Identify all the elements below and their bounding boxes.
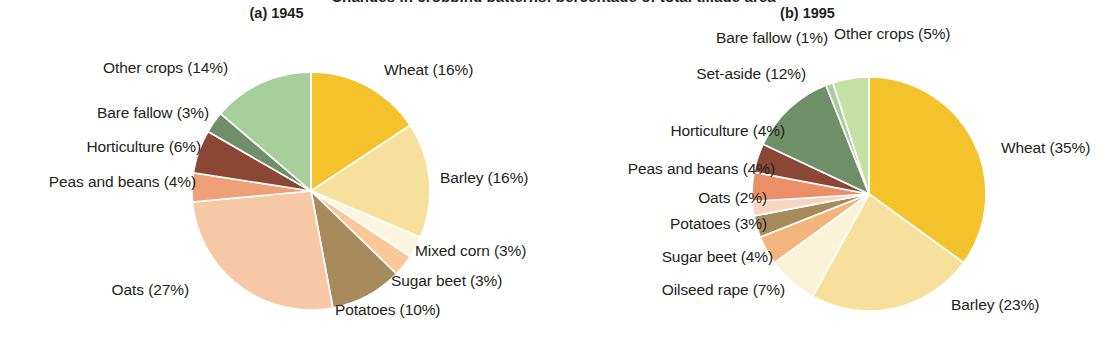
label-wheat-1995: Wheat (35%) bbox=[1001, 140, 1090, 156]
label-other-crops-1995: Other crops (5%) bbox=[834, 26, 950, 42]
label-sugar-beet-1995: Sugar beet (4%) bbox=[553, 249, 773, 265]
label-oats-1995: Oats (2%) bbox=[553, 190, 767, 206]
label-bare-fallow-1945: Bare fallow (3%) bbox=[0, 105, 209, 121]
label-barley-1945: Barley (16%) bbox=[440, 170, 528, 186]
pie-panel-1945: (a) 1945 Wheat (16%)Barley (16%)Mixed co… bbox=[0, 0, 553, 337]
label-set-aside-1995: Set-aside (12%) bbox=[553, 66, 806, 82]
label-potatoes-1995: Potatoes (3%) bbox=[553, 216, 767, 232]
label-peas-and-beans-1945: Peas and beans (4%) bbox=[0, 174, 196, 190]
pie-slice-oats: Oats (27%) bbox=[193, 191, 333, 310]
label-oats-1945: Oats (27%) bbox=[0, 282, 189, 298]
label-barley-1995: Barley (23%) bbox=[951, 297, 1039, 313]
label-peas-and-beans-1995: Peas and beans (4%) bbox=[553, 161, 775, 177]
label-mixed-corn-1945: Mixed corn (3%) bbox=[415, 243, 526, 259]
label-wheat-1945: Wheat (16%) bbox=[384, 62, 473, 78]
label-horticulture-1995: Horticulture (4%) bbox=[553, 123, 785, 139]
label-potatoes-1945: Potatoes (10%) bbox=[335, 302, 440, 318]
label-bare-fallow-1995: Bare fallow (1%) bbox=[553, 30, 828, 46]
label-other-crops-1945: Other crops (14%) bbox=[0, 60, 228, 76]
pie-panel-1995: (b) 1995 Wheat (35%)Barley (23%)Oilseed … bbox=[553, 0, 1106, 337]
figure-root: Changes in cropping patterns: percentage… bbox=[0, 0, 1107, 337]
label-horticulture-1945: Horticulture (6%) bbox=[0, 139, 201, 155]
label-sugar-beet-1945: Sugar beet (3%) bbox=[391, 273, 502, 289]
label-oilseed-rape-1995: Oilseed rape (7%) bbox=[553, 282, 785, 298]
